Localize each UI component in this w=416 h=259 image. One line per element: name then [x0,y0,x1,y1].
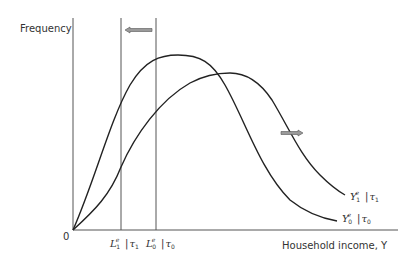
curve-y1-label: Ye1|τ1 [350,192,379,202]
marker-l0-label: Le0|τ0 [146,239,175,249]
x-axis-label: Household income, Y [282,241,387,251]
curve-y0-label: Ye0|τ0 [342,214,371,224]
curve-y1 [73,73,345,230]
marker-l1-label: Le1|τ1 [110,239,139,249]
y-axis-label: Frequency [20,24,72,34]
curve-y0 [73,55,337,230]
shift-left-arrow [125,27,152,33]
origin-label: 0 [63,232,69,242]
